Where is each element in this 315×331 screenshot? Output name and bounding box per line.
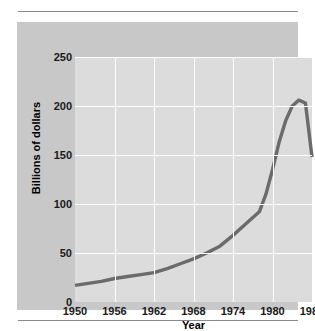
plot-area — [75, 57, 312, 302]
x-tick-label: 1956 — [95, 305, 135, 317]
x-tick-label: 1980 — [253, 305, 293, 317]
gridline-vertical — [115, 57, 116, 302]
bottom-divider-rule — [18, 320, 298, 321]
gridline-vertical — [194, 57, 195, 302]
y-tick-label: 200 — [38, 101, 72, 112]
gridline-vertical — [233, 57, 234, 302]
x-tick-label: 1986 — [292, 305, 315, 317]
y-tick-label: 150 — [38, 150, 72, 161]
chart-figure: 050100150200250 195019561962196819741980… — [0, 0, 315, 331]
x-tick-label: 1974 — [213, 305, 253, 317]
x-tick-label: 1950 — [55, 305, 95, 317]
gridline-vertical — [273, 57, 274, 302]
top-divider-rule — [18, 11, 298, 12]
y-tick-label: 100 — [38, 199, 72, 210]
chart-panel: 050100150200250 195019561962196819741980… — [17, 22, 298, 310]
x-tick-label: 1968 — [174, 305, 214, 317]
y-tick-label: 50 — [38, 248, 72, 259]
x-tick-label: 1962 — [134, 305, 174, 317]
y-tick-label: 250 — [38, 52, 72, 63]
gridline-vertical — [154, 57, 155, 302]
y-axis-title: Billions of dollars — [30, 68, 42, 228]
